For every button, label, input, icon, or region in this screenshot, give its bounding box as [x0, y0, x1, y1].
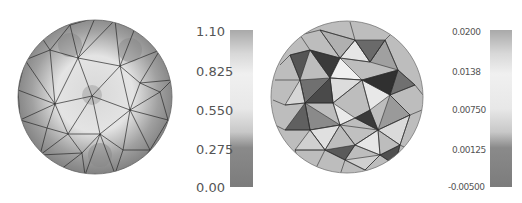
right-colorbar-tick: 0.00750 [452, 105, 486, 115]
left-colorbar [230, 30, 253, 187]
left-mesh-plot [0, 0, 200, 203]
left-colorbar-tick: 0.825 [196, 64, 233, 79]
left-colorbar-tick: 1.10 [196, 24, 225, 39]
right-colorbar [490, 30, 512, 187]
right-colorbar-tick: 0.0138 [452, 67, 481, 77]
right-mesh-plot [262, 0, 442, 203]
left-colorbar-tick: 0.00 [196, 180, 225, 195]
left-colorbar-tick: 0.550 [196, 103, 233, 118]
right-colorbar-tick: 0.00125 [452, 145, 486, 155]
right-colorbar-tick: -0.00500 [448, 182, 484, 192]
left-colorbar-tick: 0.275 [196, 142, 233, 157]
right-colorbar-tick: 0.0200 [452, 27, 481, 37]
